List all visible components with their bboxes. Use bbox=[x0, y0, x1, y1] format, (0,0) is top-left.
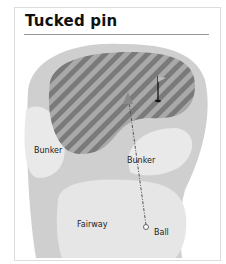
label-bunker-right: Bunker bbox=[127, 156, 155, 165]
hole-diagram bbox=[0, 0, 226, 264]
label-bunker-left: Bunker bbox=[34, 146, 62, 155]
label-fairway: Fairway bbox=[77, 220, 107, 229]
fairway-area bbox=[57, 179, 187, 258]
label-ball: Ball bbox=[154, 228, 169, 237]
ball-icon bbox=[144, 225, 149, 230]
